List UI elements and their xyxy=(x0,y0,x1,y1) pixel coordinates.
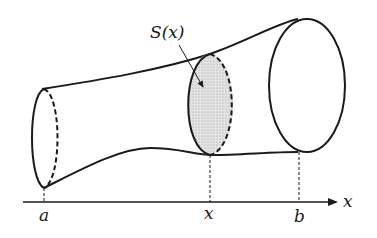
x-axis-label: x xyxy=(343,191,353,211)
label-x: x xyxy=(204,203,214,223)
right-end-ellipse xyxy=(269,19,345,152)
left-end-ellipse-back xyxy=(44,89,58,188)
x-axis-arrowhead xyxy=(328,198,338,206)
label-a: a xyxy=(39,205,49,225)
solid-of-cross-section-diagram: S(x) x a x b xyxy=(0,0,377,238)
left-end-ellipse-front xyxy=(32,89,44,188)
section-label: S(x) xyxy=(150,22,185,42)
label-b: b xyxy=(294,206,305,226)
solid-bottom-outline xyxy=(44,148,298,188)
